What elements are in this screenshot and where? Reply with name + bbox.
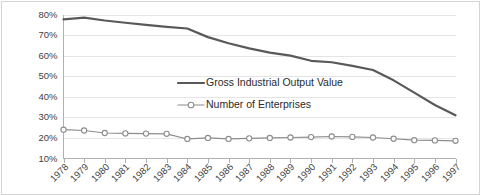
data-point-marker (102, 130, 107, 135)
x-axis-tick-label: 1997 (440, 161, 463, 184)
x-axis-tick-labels: 1978197919801981198219831984198519861987… (48, 161, 463, 184)
legend-label: Number of Enterprises (206, 98, 311, 110)
x-axis-tick-label: 1983 (151, 161, 174, 184)
x-axis-tick-label: 1992 (336, 161, 359, 184)
chart-container: 80%70%60%50%40%30%20%10% 197819791980198… (0, 0, 480, 195)
y-axis-tick-label: 80% (38, 9, 58, 20)
y-axis-tick-label: 30% (38, 111, 58, 122)
x-axis-tick-label: 1980 (89, 161, 112, 184)
data-point-marker (205, 135, 210, 140)
data-point-marker (308, 135, 313, 140)
x-axis-tick-label: 1995 (398, 161, 421, 184)
x-axis-tick-label: 1986 (213, 161, 236, 184)
data-point-marker (370, 135, 375, 140)
data-point-marker (267, 135, 272, 140)
x-axis-tick-label: 1996 (419, 161, 442, 184)
x-axis-tick-label: 1984 (171, 161, 194, 184)
x-axis-tick-label: 1991 (316, 161, 339, 184)
legend-label: Gross Industrial Output Value (206, 76, 343, 88)
x-axis-tick-label: 1979 (68, 161, 91, 184)
x-axis-tick-label: 1993 (357, 161, 380, 184)
chart-legend: Gross Industrial Output ValueNumber of E… (178, 76, 343, 110)
line-chart: 80%70%60%50%40%30%20%10% 197819791980198… (0, 0, 480, 195)
data-point-marker (350, 134, 355, 139)
y-axis-tick-label: 50% (38, 70, 58, 81)
data-point-marker (391, 136, 396, 141)
x-axis-tick-label: 1982 (130, 161, 153, 184)
data-point-marker (61, 127, 66, 132)
data-point-marker (143, 131, 148, 136)
data-point-marker (247, 136, 252, 141)
data-point-marker (82, 128, 87, 133)
y-axis-tick-label: 60% (38, 50, 58, 61)
data-point-marker (226, 136, 231, 141)
x-axis-tick-label: 1990 (295, 161, 318, 184)
data-point-marker (453, 138, 458, 143)
x-axis-tick-label: 1987 (233, 161, 256, 184)
y-axis-tick-label: 70% (38, 29, 58, 40)
data-point-marker (185, 136, 190, 141)
data-point-marker (329, 134, 334, 139)
data-point-marker (123, 131, 128, 136)
x-axis-tick-label: 1988 (254, 161, 277, 184)
x-axis-tick-label: 1978 (48, 161, 71, 184)
y-axis-tick-labels: 80%70%60%50%40%30%20%10% (38, 9, 58, 164)
x-axis-tick-label: 1985 (192, 161, 215, 184)
y-axis-tick-label: 20% (38, 132, 58, 143)
data-point-marker (288, 135, 293, 140)
data-point-marker (164, 131, 169, 136)
data-point-marker (412, 138, 417, 143)
data-point-marker (432, 138, 437, 143)
legend-swatch-marker (188, 102, 194, 108)
x-axis-tick-label: 1989 (274, 161, 297, 184)
y-axis-tick-label: 40% (38, 91, 58, 102)
x-axis-tick-label: 1981 (109, 161, 132, 184)
y-axis-tick-label: 10% (38, 153, 58, 164)
x-axis-tick-label: 1994 (378, 161, 401, 184)
